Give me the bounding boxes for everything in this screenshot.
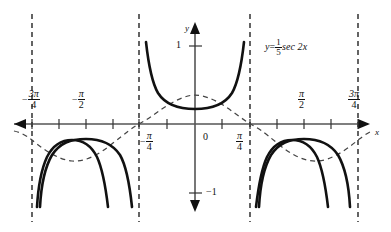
x-tick-den-neg-pi-over-2: 2 <box>78 100 85 110</box>
x-tick-frac-3pi-over-4: 3π4 <box>348 89 360 110</box>
equation-coefficient: 15 <box>275 38 282 57</box>
plot-canvas <box>0 0 391 232</box>
x-tick-den-pi-over-2: 2 <box>298 100 305 110</box>
x-tick-label-3pi-over-4: 3π4 <box>348 89 360 110</box>
y-axis-label: y <box>185 24 189 33</box>
x-tick-label-neg-3pi-over-4: −3π4 <box>22 89 40 110</box>
y-tick-label-negative-one: −1 <box>206 187 217 197</box>
x-axis-label: x <box>375 128 379 137</box>
equation-function: sec 2x <box>282 41 307 52</box>
x-axis <box>14 119 370 129</box>
x-tick-label-pi-over-4: π4 <box>236 131 243 152</box>
secant-graph-figure: y=15sec 2x y x 1 −1 0 −3π4 −π2 −π4 π4 π2… <box>0 0 391 232</box>
secant-branch-left <box>37 140 108 207</box>
y-axis <box>190 22 200 212</box>
equation-coefficient-denominator: 5 <box>275 48 282 57</box>
x-tick-label-pi-over-2: π2 <box>298 89 305 110</box>
x-tick-frac-neg-pi-over-2: π2 <box>78 89 85 110</box>
secant-branch-right <box>256 140 328 207</box>
x-tick-frac-pi-over-2: π2 <box>298 89 305 110</box>
equation-annotation: y=15sec 2x <box>265 38 307 57</box>
x-tick-den-pi-over-4: 4 <box>236 142 243 152</box>
x-tick-frac-neg-3pi-over-4: 3π4 <box>28 89 40 110</box>
x-tick-frac-pi-over-4: π4 <box>236 131 243 152</box>
x-tick-frac-neg-pi-over-4: π4 <box>146 131 153 152</box>
x-tick-label-neg-pi-over-2: −π2 <box>72 89 85 110</box>
y-tick-label-one: 1 <box>176 40 181 50</box>
x-tick-den-neg-3pi-over-4: 4 <box>28 100 40 110</box>
x-tick-den-neg-pi-over-4: 4 <box>146 142 153 152</box>
origin-label: 0 <box>203 132 208 142</box>
secant-branch-left-full <box>40 139 132 207</box>
x-tick-den-3pi-over-4: 4 <box>348 100 360 110</box>
guide-cosine-curve <box>14 95 372 161</box>
x-tick-label-neg-pi-over-4: −π4 <box>140 131 153 152</box>
